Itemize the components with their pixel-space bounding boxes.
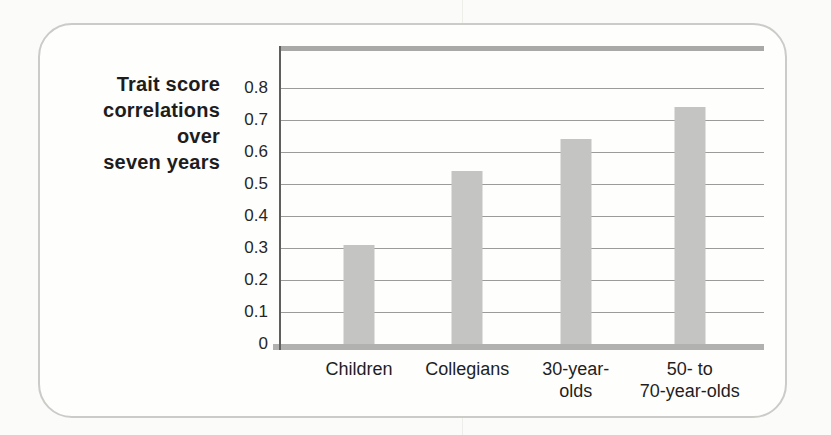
y-tick-label: 0.8 [198, 78, 268, 98]
y-tick-label: 0.5 [198, 174, 268, 194]
y-tick-label: 0.6 [198, 142, 268, 162]
plot-area: 00.10.20.30.40.50.60.70.8ChildrenCollegi… [279, 46, 764, 350]
bar-4 [674, 107, 705, 344]
page: Trait score correlations over seven year… [0, 0, 831, 435]
y-tick-label: 0 [198, 334, 268, 354]
y-tick-label: 0.3 [198, 238, 268, 258]
y-tick-label: 0.7 [198, 110, 268, 130]
bar-2 [452, 171, 483, 344]
x-category-label: 50- to 70-year-olds [610, 358, 770, 402]
y-tick-label: 0.2 [198, 270, 268, 290]
plot-top-border [279, 46, 764, 51]
y-axis-line [279, 46, 281, 350]
bar-1 [344, 245, 375, 344]
gridline [281, 88, 764, 89]
y-tick-label: 0.1 [198, 302, 268, 322]
figure-card: Trait score correlations over seven year… [38, 23, 787, 418]
y-tick-label: 0.4 [198, 206, 268, 226]
y-axis-title: Trait score correlations over seven year… [58, 71, 220, 175]
x-axis-line [273, 344, 764, 350]
bar-3 [560, 139, 591, 344]
